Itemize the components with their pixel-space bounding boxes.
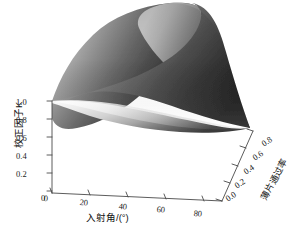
y-axis-ticks: [47, 101, 52, 191]
y-tick-label-0-4: 0.4: [16, 152, 27, 161]
x-tick-label-60: 60: [156, 205, 165, 214]
x-tick-label-0: 0: [43, 194, 48, 203]
y-axis-title: 校正因子K: [14, 102, 24, 148]
x-tick-label-20: 20: [79, 198, 88, 207]
surface-mesh: [52, 3, 250, 133]
y-tick-label-0-2: 0.2: [16, 170, 27, 179]
x-axis-title: 入射角/(°): [86, 213, 129, 223]
x-axis-line: [52, 193, 222, 201]
x-tick-label-40: 40: [118, 202, 127, 211]
surface-plot-figure: 1.0 0.8 0.6 0.4 0.2 0 校正因子K 0 20 40 60 8…: [0, 0, 290, 234]
x-tick-label-80: 80: [193, 209, 202, 218]
